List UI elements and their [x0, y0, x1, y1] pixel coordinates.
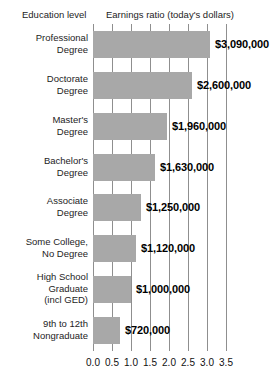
bar	[93, 235, 136, 262]
category-label: AssociateDegree	[0, 195, 88, 218]
category-label-line: Nongraduate	[0, 330, 88, 342]
bar-value-label: $1,000,000	[136, 283, 190, 295]
x-tick-label: 3.5	[214, 357, 238, 368]
category-label: ProfessionalDegree	[0, 32, 88, 55]
category-label: High SchoolGraduate(incl GED)	[0, 271, 88, 306]
category-label-line: Master's	[0, 114, 88, 126]
category-label-line: Degree	[0, 126, 88, 138]
category-label-line: Bachelor's	[0, 155, 88, 167]
category-label-line: 9th to 12th	[0, 318, 88, 330]
bar-value-label: $1,960,000	[172, 120, 226, 132]
category-label: Bachelor'sDegree	[0, 155, 88, 178]
category-label-line: Some College,	[0, 236, 88, 248]
category-label-column: ProfessionalDegreeDoctorateDegreeMaster'…	[0, 24, 88, 351]
gridline	[226, 24, 227, 351]
category-label: 9th to 12thNongraduate	[0, 318, 88, 341]
category-label-line: Degree	[0, 167, 88, 179]
bar	[93, 276, 131, 303]
bar-value-label: $1,250,000	[146, 201, 200, 213]
bar-value-label: $1,120,000	[141, 242, 195, 254]
bar	[93, 154, 155, 181]
category-label: DoctorateDegree	[0, 73, 88, 96]
x-axis-tick-labels: 0.00.51.01.52.02.53.03.5	[0, 357, 270, 373]
category-label-line: Associate	[0, 195, 88, 207]
category-label-line: Doctorate	[0, 73, 88, 85]
bar	[93, 317, 120, 344]
bar-value-label: $2,600,000	[197, 79, 251, 91]
gridline	[207, 24, 208, 351]
category-label: Master'sDegree	[0, 114, 88, 137]
bar-value-label: $3,090,000	[215, 38, 269, 50]
category-label-line: Degree	[0, 207, 88, 219]
plot-area: $3,090,000$2,600,000$1,960,000$1,630,000…	[93, 24, 226, 351]
bar	[93, 31, 210, 58]
bar-value-label: $720,000	[125, 324, 170, 336]
education-level-header: Education level	[22, 9, 86, 20]
bar	[93, 113, 167, 140]
category-label-line: No Degree	[0, 248, 88, 260]
category-label-line: High School	[0, 271, 88, 283]
category-label: Some College,No Degree	[0, 236, 88, 259]
category-label-line: Degree	[0, 44, 88, 56]
category-label-line: Professional	[0, 32, 88, 44]
earnings-by-education-bar-chart: Education level Earnings ratio (today's …	[0, 0, 270, 381]
category-label-line: (incl GED)	[0, 294, 88, 306]
category-label-line: Graduate	[0, 283, 88, 295]
bar-value-label: $1,630,000	[160, 161, 214, 173]
earnings-ratio-header: Earnings ratio (today's dollars)	[106, 9, 234, 20]
bar	[93, 72, 192, 99]
bar	[93, 194, 141, 221]
category-label-line: Degree	[0, 85, 88, 97]
